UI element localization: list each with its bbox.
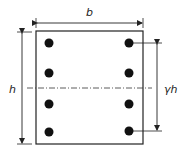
rebar [45,128,54,137]
rebar [45,100,54,109]
rebar [45,69,54,78]
rebar [45,39,54,48]
reinforcement-bars [45,39,134,137]
width-label: b [86,6,93,19]
rebar [125,39,134,48]
rebar [125,100,134,109]
height-label: h [9,83,16,96]
rebar [125,69,134,78]
rebar [125,127,134,136]
bar-spacing-label: γh [164,83,178,96]
column-section-diagram: b h γh [0,0,185,155]
